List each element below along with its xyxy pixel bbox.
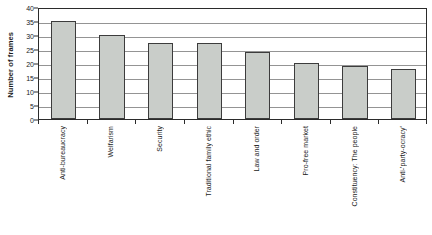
y-tick-mark xyxy=(34,92,38,93)
y-tick-label: 35 xyxy=(26,19,34,26)
x-tick-mark xyxy=(330,120,331,124)
bar xyxy=(99,35,124,119)
x-category-label-text: Anti-'party-ocracy' xyxy=(399,126,406,183)
x-category-label: Constituency: The people xyxy=(330,126,379,232)
bar xyxy=(245,52,270,119)
x-category-label-text: Law and order xyxy=(253,126,260,171)
y-axis-tick-labels: 0510152025303540 xyxy=(18,8,34,120)
x-category-label: Traditional family ethic xyxy=(184,126,233,232)
x-tick-mark xyxy=(378,120,379,124)
bar-chart: Number of frames 0510152025303540 Anti-b… xyxy=(0,0,432,235)
x-category-label-text: Traditional family ethic xyxy=(205,126,212,197)
x-axis-ticks xyxy=(38,120,427,125)
x-category-label: Law and order xyxy=(233,126,282,232)
bar xyxy=(391,69,416,119)
bar xyxy=(148,43,173,119)
x-category-label: Anti-'party-ocracy' xyxy=(378,126,427,232)
y-tick-label: 25 xyxy=(26,47,34,54)
x-category-label-text: Security xyxy=(156,126,163,152)
x-category-label-text: Welfarism xyxy=(107,126,114,157)
y-tick-label: 40 xyxy=(26,5,34,12)
x-category-label-text: Anti-bureaucracy xyxy=(59,126,66,180)
x-tick-mark xyxy=(87,120,88,124)
bar xyxy=(342,66,367,119)
y-tick-mark xyxy=(34,22,38,23)
bar xyxy=(197,43,222,119)
plot-area xyxy=(38,8,427,120)
y-axis-title: Number of frames xyxy=(0,0,20,130)
bars-group xyxy=(39,9,426,119)
x-category-label-text: Pro-free market xyxy=(302,126,309,175)
y-tick-mark xyxy=(34,50,38,51)
x-category-label: Anti-bureaucracy xyxy=(38,126,87,232)
y-axis-title-text: Number of frames xyxy=(6,32,15,98)
y-tick-label: 15 xyxy=(26,75,34,82)
x-tick-mark xyxy=(281,120,282,124)
x-category-label: Pro-free market xyxy=(281,126,330,232)
bar xyxy=(51,21,76,119)
y-tick-mark xyxy=(34,36,38,37)
x-tick-mark xyxy=(135,120,136,124)
y-tick-label: 10 xyxy=(26,89,34,96)
x-category-label: Welfarism xyxy=(87,126,136,232)
y-tick-label: 30 xyxy=(26,33,34,40)
x-category-label-text: Constituency: The people xyxy=(351,126,358,206)
x-axis-category-labels: Anti-bureaucracyWelfarismSecurityTraditi… xyxy=(38,126,427,234)
x-category-label: Security xyxy=(135,126,184,232)
y-tick-mark xyxy=(34,78,38,79)
y-tick-mark xyxy=(34,106,38,107)
x-tick-mark xyxy=(233,120,234,124)
y-tick-mark xyxy=(34,64,38,65)
x-tick-mark xyxy=(184,120,185,124)
y-tick-mark xyxy=(34,8,38,9)
bar xyxy=(294,63,319,119)
y-tick-mark xyxy=(34,120,38,121)
x-tick-mark xyxy=(426,120,427,124)
y-tick-label: 20 xyxy=(26,61,34,68)
x-tick-mark xyxy=(38,120,39,124)
